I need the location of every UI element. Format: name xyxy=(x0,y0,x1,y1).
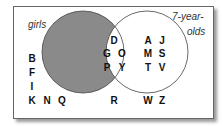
seven-year-olds-label-line1: 7-year- xyxy=(172,11,204,22)
seven-year-olds-label-line2: olds xyxy=(187,26,205,37)
element-V: V xyxy=(159,62,166,73)
element-K: K xyxy=(28,95,36,106)
element-P: P xyxy=(104,62,111,73)
element-J: J xyxy=(159,35,165,46)
element-Y: Y xyxy=(119,62,126,73)
element-T: T xyxy=(145,62,151,73)
girls-label: girls xyxy=(28,19,46,30)
element-S: S xyxy=(159,48,166,59)
girls-only-shaded-region xyxy=(42,11,124,93)
element-N: N xyxy=(43,95,50,106)
element-F: F xyxy=(29,67,35,78)
element-I: I xyxy=(31,81,34,92)
element-M: M xyxy=(144,48,152,59)
element-B: B xyxy=(28,53,35,64)
element-A: A xyxy=(144,35,151,46)
element-Q: Q xyxy=(58,95,66,106)
element-R: R xyxy=(110,95,118,106)
element-G: G xyxy=(103,48,111,59)
element-O: O xyxy=(118,48,126,59)
element-W: W xyxy=(143,95,153,106)
element-Z: Z xyxy=(159,95,165,106)
venn-diagram: girls 7-year- olds D G O P Y A J M S T V… xyxy=(0,0,223,126)
element-D: D xyxy=(110,35,117,46)
